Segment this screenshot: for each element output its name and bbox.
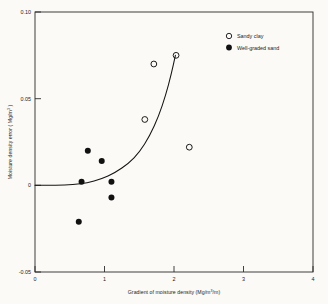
axes-box (35, 12, 313, 272)
data-point (108, 179, 114, 185)
x-tick-label-4: 4 (312, 276, 315, 282)
y-axis-ticks (35, 12, 41, 272)
legend: Sandy clay Well-graded sand (226, 33, 279, 51)
x-tick-label-2: 2 (173, 276, 176, 282)
legend-filled-circle-icon (226, 45, 232, 51)
data-point (186, 144, 192, 150)
data-point (173, 52, 179, 58)
legend-label-well-graded-sand: Well-graded sand (237, 45, 279, 51)
data-point (142, 117, 148, 123)
y-tick-label-3: 0.10 (21, 9, 32, 15)
x-tick-label-1: 1 (103, 276, 106, 282)
y-tick-label-2: 0.05 (21, 96, 32, 102)
plot-frame (35, 12, 313, 272)
y-axis-title-pre: Moisture density error ( Mg/m (7, 110, 13, 179)
y-tick-label-1: 0 (28, 182, 31, 188)
x-axis-ticks (35, 266, 313, 272)
scatter-plot: 0.10 0.05 0 -0.05 0 1 2 3 4 Gradient of … (0, 0, 328, 304)
legend-open-circle-icon (226, 33, 231, 38)
x-axis-title-pre: Gradient of moisture density (Mg/m (128, 289, 211, 295)
data-point (151, 61, 157, 67)
data-point (85, 148, 91, 154)
x-axis-title: Gradient of moisture density (Mg/m3/m) (128, 289, 221, 295)
data-point (99, 158, 105, 164)
x-axis-title-post: /m) (213, 289, 221, 295)
y-axis-title-post: ) (7, 105, 13, 108)
data-point (76, 219, 82, 225)
y-tick-label-0: -0.05 (19, 269, 31, 275)
legend-label-sandy-clay: Sandy clay (237, 33, 264, 39)
x-tick-label-3: 3 (242, 276, 245, 282)
y-axis-title: Moisture density error ( Mg/m3 ) (7, 105, 13, 180)
figure-container: 0.10 0.05 0 -0.05 0 1 2 3 4 Gradient of … (0, 0, 328, 304)
x-tick-label-0: 0 (34, 276, 37, 282)
series-well-graded-sand-points (76, 148, 115, 225)
fitted-curve (35, 55, 175, 185)
data-point (79, 179, 85, 185)
data-point (108, 194, 114, 200)
